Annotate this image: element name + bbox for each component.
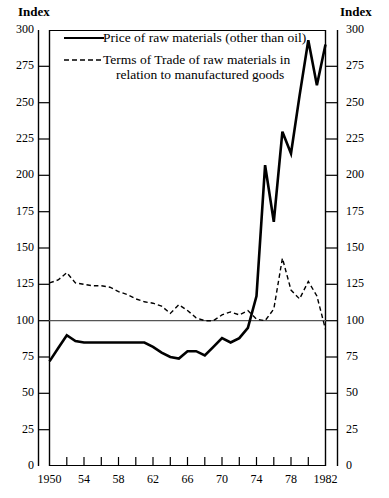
y-tick-label-right: 25	[346, 422, 380, 437]
x-tick-label: 1982	[306, 472, 346, 487]
y-tick-label-left: 100	[4, 313, 34, 328]
y-tick-label-left: 125	[4, 276, 34, 291]
y-tick-label-right: 250	[346, 95, 380, 110]
y-tick-label-left: 25	[4, 422, 34, 437]
y-tick-label-right: 125	[346, 276, 380, 291]
y-tick-marks	[39, 66, 338, 429]
chart-container: Index Index Price of raw materials (othe	[0, 0, 389, 498]
y-tick-label-right: 225	[346, 131, 380, 146]
y-tick-label-left: 0	[4, 458, 34, 473]
y-tick-label-right: 200	[346, 167, 380, 182]
y-tick-label-left: 200	[4, 167, 34, 182]
legend-label-terms-line2: relation to manufactured goods	[116, 67, 284, 83]
y-tick-label-right: 100	[346, 313, 380, 328]
y-tick-label-left: 50	[4, 385, 34, 400]
y-tick-label-left: 75	[4, 349, 34, 364]
y-tick-label-right: 175	[346, 204, 380, 219]
y-tick-label-left: 175	[4, 204, 34, 219]
series-price-of-raw-materials	[50, 40, 326, 361]
y-tick-label-right: 275	[346, 58, 380, 73]
y-tick-label-left: 275	[4, 58, 34, 73]
y-tick-label-left: 225	[4, 131, 34, 146]
y-tick-label-right: 150	[346, 240, 380, 255]
y-tick-label-right: 0	[346, 458, 380, 473]
y-tick-label-left: 150	[4, 240, 34, 255]
legend-label-price: Price of raw materials (other than oil)	[103, 30, 306, 46]
legend-label-terms-line1: Terms of Trade of raw materials in	[103, 52, 290, 68]
y-tick-label-left: 300	[4, 22, 34, 37]
x-tick-marks	[67, 457, 308, 466]
y-tick-label-left: 250	[4, 95, 34, 110]
series-terms-of-trade	[50, 258, 326, 329]
y-tick-label-right: 300	[346, 22, 380, 37]
y-tick-label-right: 75	[346, 349, 380, 364]
y-tick-label-right: 50	[346, 385, 380, 400]
